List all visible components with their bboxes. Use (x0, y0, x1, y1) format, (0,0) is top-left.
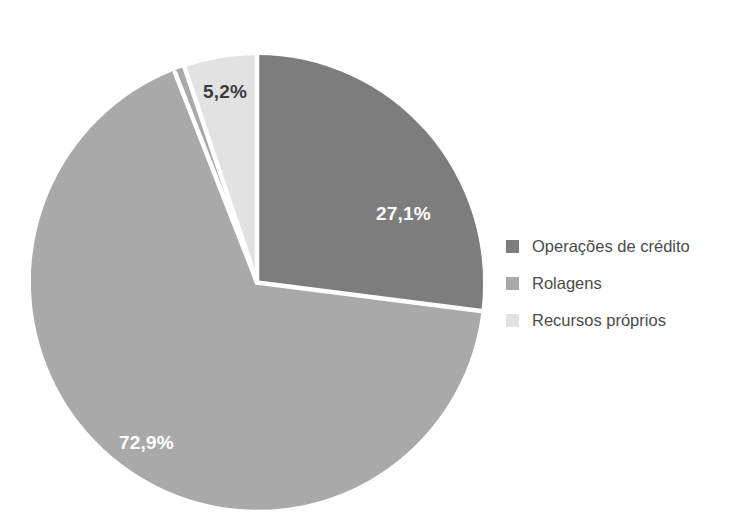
legend-item-label: Rolagens (532, 275, 602, 292)
pie-svg (31, 55, 483, 510)
legend-item-label: Recursos próprios (532, 312, 666, 329)
legend-swatch-icon (506, 240, 519, 253)
legend-swatch-icon (506, 277, 519, 290)
legend-swatch-icon (506, 314, 519, 327)
pie-chart-figure: 27,1% 72,9% 5,2% Operações de crédito Ro… (0, 0, 737, 531)
legend-item-recursos-proprios[interactable]: Recursos próprios (506, 302, 737, 339)
chart-legend: Operações de crédito Rolagens Recursos p… (506, 228, 737, 339)
slice-value-label-operacoes-de-credito: 27,1% (376, 203, 431, 225)
legend-item-operacoes-de-credito[interactable]: Operações de crédito (506, 228, 737, 265)
legend-item-rolagens[interactable]: Rolagens (506, 265, 737, 302)
slice-value-label-rolagens: 72,9% (119, 432, 174, 454)
pie-slice-operacoes-de-credito[interactable] (257, 55, 483, 311)
pie-plot-area: 27,1% 72,9% 5,2% (31, 55, 483, 510)
slice-value-label-recursos-proprios: 5,2% (203, 81, 247, 103)
legend-item-label: Operações de crédito (532, 238, 690, 255)
